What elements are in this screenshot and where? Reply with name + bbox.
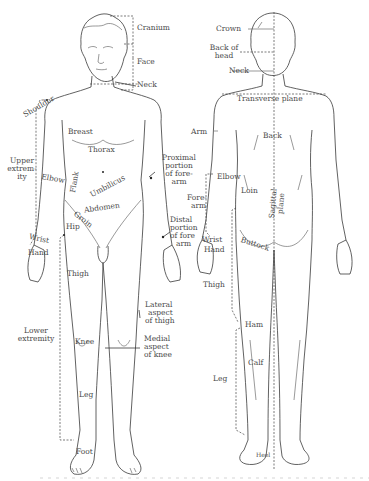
label-elbow-posterior: Elbow — [217, 173, 241, 181]
label-face: Face — [137, 58, 155, 66]
label-arm: Arm — [191, 128, 207, 136]
anterior-figure — [28, 14, 181, 475]
label-ham: Ham — [245, 321, 263, 329]
label-thigh: Thigh — [67, 270, 89, 278]
label-upper-extremity: Upper extrem- ity — [7, 157, 37, 181]
label-proximal-forearm: Proximal portion of fore- arm — [160, 154, 198, 186]
anatomical-regions-figure: Cranium Face Neck Shoulder Breast Thorax… — [0, 0, 369, 481]
label-cranium: Cranium — [137, 24, 170, 32]
label-back-of-head: Back of head — [206, 44, 242, 60]
label-lower-extremity: Lower extremity — [16, 327, 56, 343]
label-crown: Crown — [216, 25, 241, 33]
label-hand: Hand — [28, 249, 49, 257]
label-hip: Hip — [66, 223, 80, 231]
label-calf: Calf — [248, 359, 263, 367]
label-foot: Foot — [76, 448, 93, 456]
label-thigh-posterior: Thigh — [203, 281, 225, 289]
label-sagittal-plane: Sagittal plane — [268, 188, 287, 219]
label-leg: Leg — [79, 391, 93, 399]
label-forearm: Fore- arm — [187, 194, 207, 210]
label-lateral-aspect-of-thigh: Lateral aspect of thigh — [145, 301, 175, 325]
label-hand-posterior: Hand — [204, 246, 225, 254]
label-breast: Breast — [68, 128, 93, 136]
label-loin: Loin — [241, 187, 258, 195]
label-thorax: Thorax — [88, 146, 115, 154]
label-transverse-plane: Transverse plane — [237, 95, 303, 103]
label-wrist-posterior: Wrist — [202, 236, 222, 244]
label-neck: Neck — [137, 81, 157, 89]
label-back: Back — [263, 132, 282, 140]
label-distal-forearm: Distal portion of fore arm — [170, 216, 198, 248]
label-leg-posterior: Leg — [213, 375, 227, 383]
label-medial-aspect-of-knee: Medial aspect of knee — [144, 335, 172, 359]
label-knee: Knee — [75, 338, 94, 346]
label-neck-posterior: Neck — [229, 67, 249, 75]
label-heel: Heel — [256, 451, 270, 459]
